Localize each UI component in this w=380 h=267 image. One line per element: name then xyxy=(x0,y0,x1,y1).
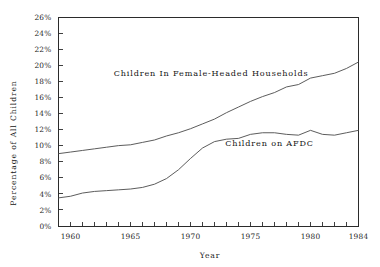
x-tick-label-5: 1984 xyxy=(349,232,369,241)
annotation-afdc: Children on AFDC xyxy=(225,138,314,148)
y-axis-title: Percentage of All Children xyxy=(9,80,18,205)
y-tick-label-10: 20% xyxy=(34,61,51,70)
x-tick-label-0: 1960 xyxy=(61,232,81,241)
y-axis-tick-labels: 0%2%4%6%8%10%12%14%16%18%20%22%24%26% xyxy=(34,13,51,231)
annotation-female-headed: Children In Female-Headed Households xyxy=(114,68,309,78)
y-tick-label-9: 18% xyxy=(34,77,51,86)
y-tick-label-2: 4% xyxy=(39,190,51,199)
x-tick-label-1: 1965 xyxy=(121,232,141,241)
x-tick-label-3: 1975 xyxy=(241,232,261,241)
line-chart: 0%2%4%6%8%10%12%14%16%18%20%22%24%26% 19… xyxy=(0,0,380,267)
chart-container: 0%2%4%6%8%10%12%14%16%18%20%22%24%26% 19… xyxy=(0,0,380,267)
y-tick-label-11: 22% xyxy=(34,45,51,54)
y-tick-label-7: 14% xyxy=(34,109,51,118)
x-tick-label-4: 1980 xyxy=(301,232,321,241)
y-tick-label-3: 6% xyxy=(39,173,51,182)
y-tick-label-4: 8% xyxy=(39,157,51,166)
chart-series xyxy=(59,62,359,198)
y-tick-label-0: 0% xyxy=(39,222,51,231)
x-axis-tick-labels: 196019651970197519801984 xyxy=(61,232,369,241)
y-tick-label-5: 10% xyxy=(34,141,51,150)
x-axis-title: Year xyxy=(199,251,221,260)
y-tick-label-8: 16% xyxy=(34,93,51,102)
y-tick-label-6: 12% xyxy=(34,125,51,134)
chart-annotations: Children In Female-Headed HouseholdsChil… xyxy=(114,68,314,148)
y-tick-label-13: 26% xyxy=(34,13,51,22)
y-tick-label-1: 2% xyxy=(39,206,51,215)
x-tick-label-2: 1970 xyxy=(181,232,201,241)
y-tick-label-12: 24% xyxy=(34,29,51,38)
